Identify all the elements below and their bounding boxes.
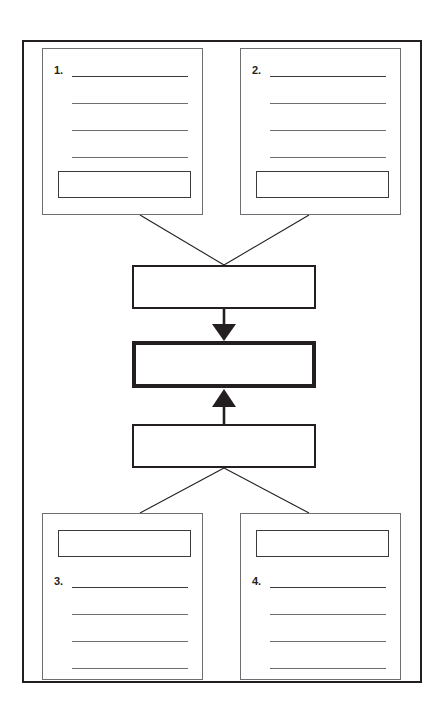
write-line[interactable] xyxy=(270,641,386,642)
card-3-lines: 3. xyxy=(43,572,202,680)
write-line[interactable] xyxy=(270,157,386,158)
card-1-lines: 1. xyxy=(43,61,202,169)
write-line[interactable] xyxy=(270,587,386,588)
line-number-label: 4. xyxy=(252,574,261,588)
write-line[interactable] xyxy=(270,668,386,669)
line-row xyxy=(43,115,202,142)
line-row xyxy=(43,88,202,115)
line-row xyxy=(43,626,202,653)
line-row xyxy=(43,599,202,626)
card-2-answer-box[interactable] xyxy=(256,171,389,198)
note-card-1[interactable]: 1. xyxy=(42,48,203,215)
line-row xyxy=(241,115,400,142)
line-row xyxy=(241,142,400,169)
line-number-label: 1. xyxy=(54,63,63,77)
write-line[interactable] xyxy=(72,614,188,615)
note-card-2[interactable]: 2. xyxy=(240,48,401,215)
line-row: 2. xyxy=(241,61,400,88)
write-line[interactable] xyxy=(270,130,386,131)
write-line[interactable] xyxy=(72,641,188,642)
card-4-lines: 4. xyxy=(241,572,400,680)
line-row xyxy=(241,653,400,680)
write-line[interactable] xyxy=(72,668,188,669)
line-row: 1. xyxy=(43,61,202,88)
write-line[interactable] xyxy=(72,587,188,588)
line-row: 4. xyxy=(241,572,400,599)
note-card-4[interactable]: 4. xyxy=(240,513,401,680)
note-card-3[interactable]: 3. xyxy=(42,513,203,680)
center-box-middle[interactable] xyxy=(132,341,316,388)
card-1-answer-box[interactable] xyxy=(58,171,191,198)
line-row xyxy=(241,599,400,626)
line-number-label: 2. xyxy=(252,63,261,77)
card-3-answer-box[interactable] xyxy=(58,530,191,557)
write-line[interactable] xyxy=(270,103,386,104)
line-row xyxy=(241,88,400,115)
diagram-canvas: 1. 2. xyxy=(0,0,446,720)
write-line[interactable] xyxy=(72,76,188,77)
center-box-top[interactable] xyxy=(132,265,316,309)
card-2-lines: 2. xyxy=(241,61,400,169)
write-line[interactable] xyxy=(72,130,188,131)
line-row xyxy=(241,626,400,653)
write-line[interactable] xyxy=(72,103,188,104)
card-4-answer-box[interactable] xyxy=(256,530,389,557)
write-line[interactable] xyxy=(270,76,386,77)
line-row xyxy=(43,653,202,680)
write-line[interactable] xyxy=(72,157,188,158)
center-box-bottom[interactable] xyxy=(132,424,316,468)
write-line[interactable] xyxy=(270,614,386,615)
line-row: 3. xyxy=(43,572,202,599)
line-row xyxy=(43,142,202,169)
line-number-label: 3. xyxy=(54,574,63,588)
